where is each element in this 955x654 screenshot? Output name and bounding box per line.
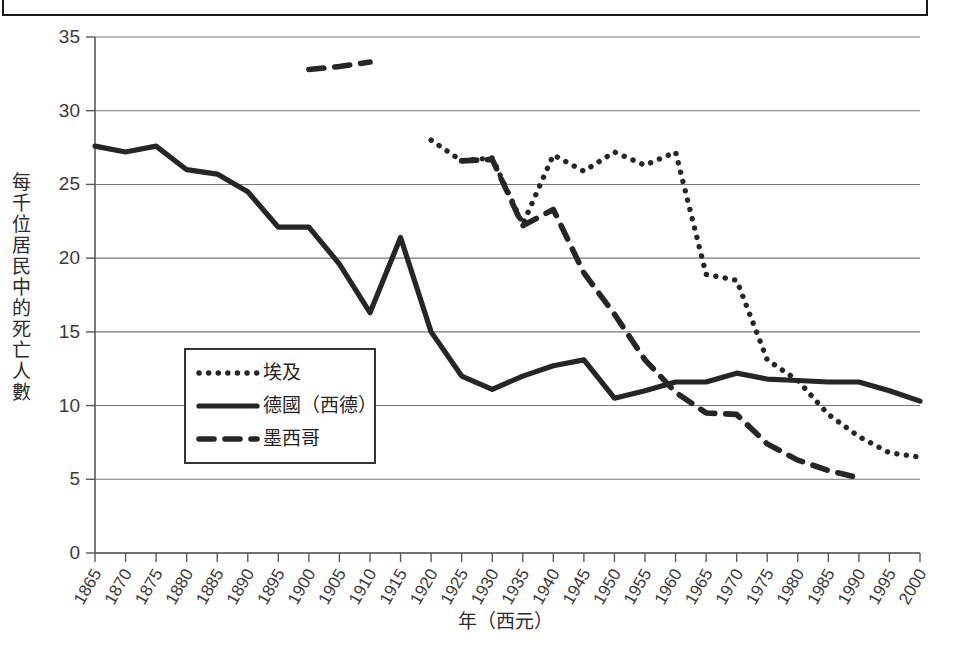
legend: 埃及德國（西德）墨西哥 xyxy=(185,349,377,463)
chart-page: 每千位居民中的死亡人數 05101520253035 1865187018751… xyxy=(0,0,955,654)
y-tick-label-30: 30 xyxy=(59,100,80,121)
y-tick-label-25: 25 xyxy=(59,173,80,194)
y-tick-label-10: 10 xyxy=(59,395,80,416)
x-tick-label-1980: 1980 xyxy=(773,566,808,608)
x-tick-label-1995: 1995 xyxy=(865,566,900,608)
gridlines xyxy=(95,37,920,553)
line-chart: 05101520253035 1865187018751880188518901… xyxy=(0,0,955,654)
x-tick-label-1870: 1870 xyxy=(101,566,136,608)
y-tick-label-0: 0 xyxy=(69,542,80,563)
chart-svg: 05101520253035 1865187018751880188518901… xyxy=(0,0,955,654)
x-tick-label-1910: 1910 xyxy=(345,566,380,608)
y-tick-label-35: 35 xyxy=(59,26,80,47)
y-axis: 05101520253035 xyxy=(59,26,95,563)
x-tick-label-1865: 1865 xyxy=(70,566,105,608)
x-tick-label-1965: 1965 xyxy=(681,566,716,608)
x-tick-label-1940: 1940 xyxy=(528,566,563,608)
x-tick-label-1935: 1935 xyxy=(498,566,533,608)
series-path-2-1 xyxy=(462,159,859,477)
x-tick-label-1985: 1985 xyxy=(803,566,838,608)
y-tick-label-15: 15 xyxy=(59,321,80,342)
x-tick-label-1900: 1900 xyxy=(284,566,319,608)
x-axis-title: 年（西元） xyxy=(458,611,553,632)
x-tick-label-1890: 1890 xyxy=(223,566,258,608)
x-tick-label-2000: 2000 xyxy=(895,566,930,608)
series-path-2-0 xyxy=(309,62,370,69)
x-tick-label-1930: 1930 xyxy=(467,566,502,608)
x-tick-label-1880: 1880 xyxy=(162,566,197,608)
x-tick-label-1905: 1905 xyxy=(315,566,350,608)
x-tick-label-1915: 1915 xyxy=(376,566,411,608)
y-tick-label-5: 5 xyxy=(69,468,80,489)
x-tick-label-1960: 1960 xyxy=(651,566,686,608)
x-tick-label-1975: 1975 xyxy=(742,566,777,608)
x-tick-label-1990: 1990 xyxy=(834,566,869,608)
x-tick-label-1895: 1895 xyxy=(253,566,288,608)
legend-label-2: 墨西哥 xyxy=(263,428,320,449)
x-tick-label-1885: 1885 xyxy=(192,566,227,608)
x-tick-label-1950: 1950 xyxy=(590,566,625,608)
x-axis: 1865187018751880188518901895190019051910… xyxy=(70,553,930,608)
legend-label-1: 德國（西德） xyxy=(263,395,377,416)
x-tick-label-1920: 1920 xyxy=(406,566,441,608)
x-tick-label-1925: 1925 xyxy=(437,566,472,608)
x-tick-label-1945: 1945 xyxy=(559,566,594,608)
legend-label-0: 埃及 xyxy=(263,362,301,383)
x-tick-label-1970: 1970 xyxy=(712,566,747,608)
y-tick-label-20: 20 xyxy=(59,247,80,268)
x-tick-label-1955: 1955 xyxy=(620,566,655,608)
x-tick-label-1875: 1875 xyxy=(131,566,166,608)
